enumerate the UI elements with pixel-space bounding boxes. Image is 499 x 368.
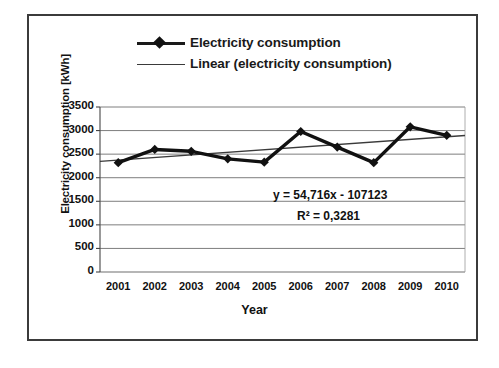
x-tick-label: 2002 (135, 280, 175, 292)
y-tick-label: 1000 (48, 217, 94, 229)
x-tick-label: 2004 (208, 280, 248, 292)
x-tick-label: 2005 (244, 280, 284, 292)
x-tick-label: 2003 (171, 280, 211, 292)
y-tick-label: 500 (48, 240, 94, 252)
y-tick-label: 2000 (48, 170, 94, 182)
y-tick-label: 0 (48, 264, 94, 276)
trendline-equation-annotation: y = 54,716x - 107123 (273, 188, 387, 202)
x-tick-label: 2001 (98, 280, 138, 292)
x-tick-label: 2006 (281, 280, 321, 292)
r-squared-annotation: R² = 0,3281 (297, 209, 360, 223)
y-tick-label: 3500 (48, 99, 94, 111)
plot-area (29, 16, 480, 343)
x-tick-label: 2009 (390, 280, 430, 292)
r-squared-text: R² = 0,3281 (297, 209, 360, 223)
x-tick-label: 2010 (427, 280, 467, 292)
chart-frame: Electricity consumption Linear (electric… (27, 14, 478, 341)
y-tick-label: 3000 (48, 123, 94, 135)
x-tick-label: 2007 (317, 280, 357, 292)
y-tick-label: 2500 (48, 146, 94, 158)
x-tick-label: 2008 (354, 280, 394, 292)
y-tick-label: 1500 (48, 193, 94, 205)
